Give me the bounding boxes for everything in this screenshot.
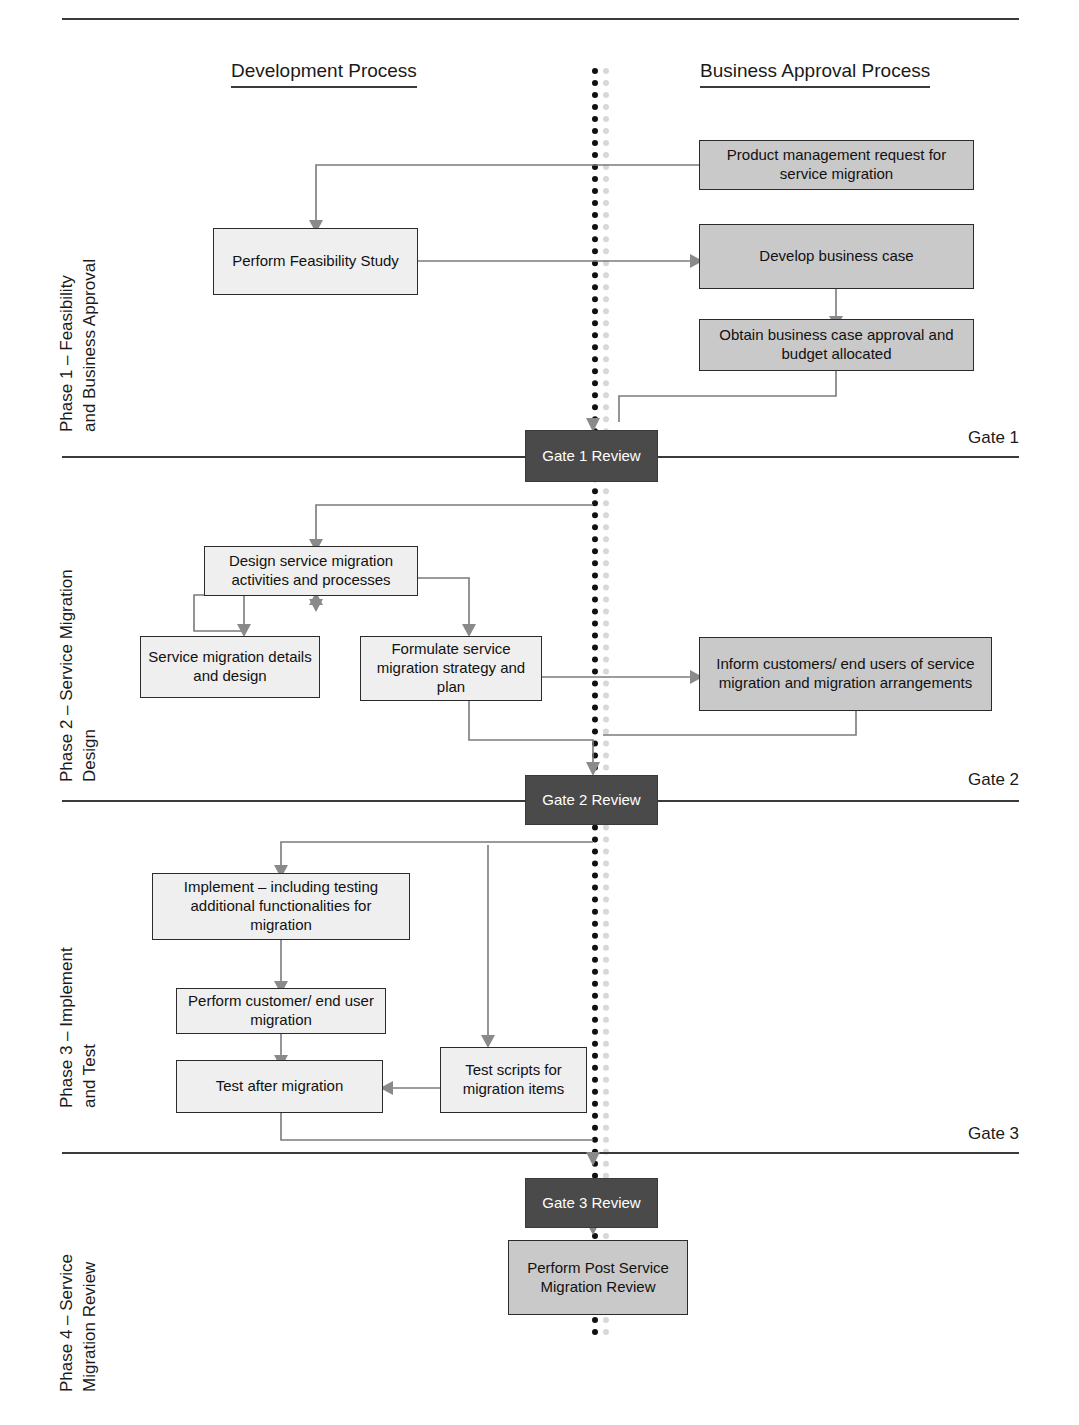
node-obtain-business-case-approval[interactable]: Obtain business case approval and budget… [699, 319, 974, 371]
phase-label-phase1: Phase 1 – Feasibility and Business Appro… [56, 112, 102, 432]
node-test-scripts-for-migration-items[interactable]: Test scripts for migration items [440, 1047, 587, 1113]
node-perform-feasibility-study[interactable]: Perform Feasibility Study [213, 228, 418, 295]
node-test-after-migration[interactable]: Test after migration [176, 1060, 383, 1113]
phase-label-phase3: Phase 3 – Implement and Test [56, 818, 102, 1108]
column-title-development: Development Process [231, 60, 417, 88]
node-develop-business-case[interactable]: Develop business case [699, 224, 974, 289]
column-title-business: Business Approval Process [700, 60, 930, 88]
gate-tag-2: Gate 2 [968, 770, 1019, 790]
gate-review-box-1[interactable]: Gate 1 Review [525, 430, 658, 482]
process-flow-diagram: Development Process Business Approval Pr… [0, 0, 1079, 1425]
gate-review-box-3[interactable]: Gate 3 Review [525, 1178, 658, 1228]
phase-label-phase4: Phase 4 – Service Migration Review [56, 1142, 102, 1392]
node-product-management-request[interactable]: Product management request for service m… [699, 140, 974, 190]
swimlane-divider-shadow [603, 68, 609, 1336]
gate-tag-1: Gate 1 [968, 428, 1019, 448]
node-design-service-migration-activities[interactable]: Design service migration activities and … [204, 546, 418, 596]
top-border-rule [62, 18, 1019, 20]
phase-label-phase2: Phase 2 – Service Migration Design [56, 482, 102, 782]
swimlane-divider [592, 68, 598, 1336]
node-perform-customer-end-user-migration[interactable]: Perform customer/ end user migration [176, 988, 386, 1034]
gate-review-box-2[interactable]: Gate 2 Review [525, 775, 658, 825]
node-implement-including-testing[interactable]: Implement – including testing additional… [152, 873, 410, 940]
node-formulate-service-migration-strategy[interactable]: Formulate service migration strategy and… [360, 636, 542, 701]
node-inform-customers-end-users[interactable]: Inform customers/ end users of service m… [699, 637, 992, 711]
node-perform-post-service-migration-review[interactable]: Perform Post Service Migration Review [508, 1240, 688, 1315]
node-service-migration-details-and-design[interactable]: Service migration details and design [140, 636, 320, 698]
phase-separator-3 [62, 1152, 1019, 1154]
gate-tag-3: Gate 3 [968, 1124, 1019, 1144]
